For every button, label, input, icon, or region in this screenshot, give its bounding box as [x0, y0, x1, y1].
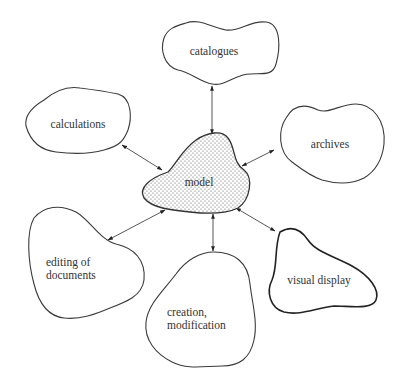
editing-label-line2: documents [46, 269, 96, 281]
editing-label: editing of [46, 256, 91, 269]
creation-label-line2: modification [167, 319, 226, 331]
diagram-canvas: catalogues calculations archives model e… [0, 0, 404, 384]
model-label: model [185, 176, 214, 188]
edge-model-visual [236, 208, 275, 231]
node-archives: archives [281, 104, 385, 183]
visual-outline [269, 229, 377, 313]
node-model: model [142, 133, 249, 213]
creation-label: creation, [167, 306, 207, 319]
model-outline [142, 133, 249, 213]
node-calculations: calculations [26, 88, 131, 154]
node-editing: editing of documents [29, 207, 144, 318]
edge-model-calculations [122, 145, 162, 170]
archives-label: archives [311, 138, 350, 150]
node-catalogues: catalogues [163, 22, 279, 85]
node-creation: creation, modification [146, 252, 256, 367]
edge-model-archives [242, 150, 274, 166]
node-visual: visual display [269, 229, 377, 313]
calculations-label: calculations [51, 118, 106, 130]
visual-label: visual display [287, 274, 351, 287]
edge-model-editing [108, 210, 165, 240]
catalogues-label: catalogues [190, 45, 239, 58]
